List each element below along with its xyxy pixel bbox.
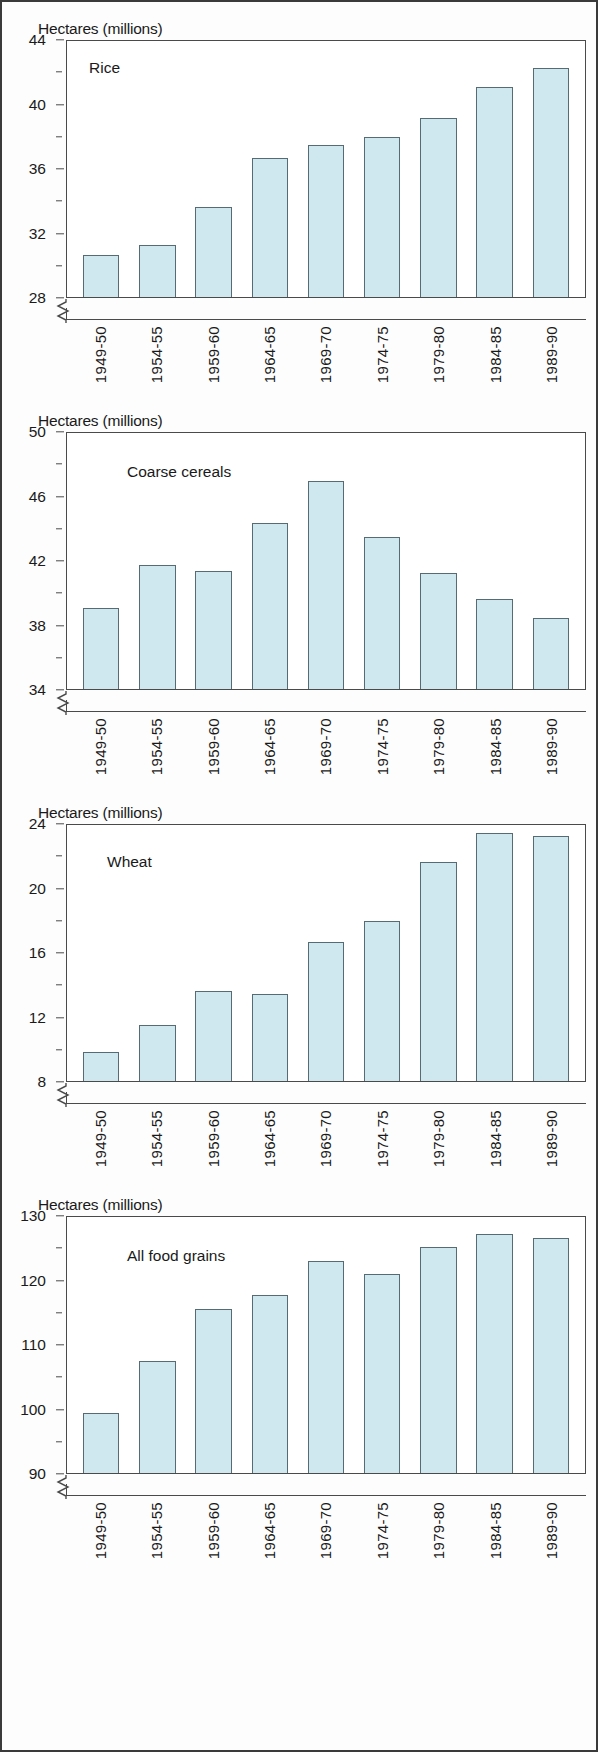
- x-axis-origin-stub: [66, 700, 67, 712]
- x-tick-label: 1964-65: [261, 1502, 278, 1559]
- y-tick-label: 100: [20, 1402, 46, 1418]
- y-axis-tick-major: [56, 431, 64, 432]
- bar: [139, 1361, 175, 1473]
- y-axis-tick-major: [56, 1017, 64, 1018]
- x-tick-label-wrap: 1959-60: [195, 1496, 232, 1574]
- bar: [533, 1238, 569, 1473]
- x-tick-label: 1964-65: [261, 326, 278, 383]
- chart-panel: Hectares (millions)2832364044Rice1949-50…: [12, 20, 586, 398]
- x-tick-label-wrap: 1984-85: [477, 1496, 514, 1574]
- x-tick-label: 1964-65: [261, 1110, 278, 1167]
- x-tick-label: 1954-55: [148, 718, 165, 775]
- bar: [364, 137, 400, 297]
- x-tick-label: 1974-75: [374, 1110, 391, 1167]
- y-axis-tick-minor: [56, 136, 62, 137]
- bar: [364, 921, 400, 1081]
- x-tick-label: 1989-90: [543, 326, 560, 383]
- y-axis-tick-major: [56, 1215, 64, 1216]
- bar: [252, 523, 288, 689]
- y-axis-tick-minor: [56, 1049, 62, 1050]
- x-tick-label-wrap: 1979-80: [421, 1104, 458, 1182]
- y-axis-labels: 2832364044: [12, 40, 56, 298]
- plot-box: Coarse cereals: [66, 432, 586, 690]
- x-axis-labels: 1949-501954-551959-601964-651969-701974-…: [66, 712, 586, 790]
- y-tick-label: 130: [20, 1208, 46, 1224]
- x-axis-region: [12, 1082, 586, 1104]
- plot-area-wrapper: 3438424650Coarse cereals: [12, 432, 586, 690]
- x-tick-label-wrap: 1989-90: [533, 320, 570, 398]
- bar: [476, 1234, 512, 1473]
- x-tick-label: 1979-80: [430, 1502, 447, 1559]
- x-tick-label: 1954-55: [148, 1502, 165, 1559]
- plot-area-wrapper: 2832364044Rice: [12, 40, 586, 298]
- x-tick-label-wrap: 1974-75: [364, 320, 401, 398]
- y-axis-tick-major: [56, 1280, 64, 1281]
- y-axis-tick-major: [56, 560, 64, 561]
- x-tick-label-wrap: 1974-75: [364, 1496, 401, 1574]
- y-tick-label: 44: [29, 32, 46, 48]
- x-tick-label: 1969-70: [317, 1110, 334, 1167]
- chart-panel: Hectares (millions)3438424650Coarse cere…: [12, 412, 586, 790]
- plot-box: All food grains: [66, 1216, 586, 1474]
- y-axis-tick-minor: [56, 528, 62, 529]
- x-axis-labels: 1949-501954-551959-601964-651969-701974-…: [66, 1104, 586, 1182]
- bar: [476, 833, 512, 1081]
- y-axis-tick-minor: [56, 1312, 62, 1313]
- plot-area-wrapper: 90100110120130All food grains: [12, 1216, 586, 1474]
- x-tick-label: 1979-80: [430, 1110, 447, 1167]
- x-tick-label-wrap: 1964-65: [251, 320, 288, 398]
- bar: [139, 245, 175, 297]
- x-tick-label: 1974-75: [374, 1502, 391, 1559]
- y-tick-label: 50: [29, 424, 46, 440]
- y-tick-label: 16: [29, 945, 46, 961]
- x-axis-region: [12, 1474, 586, 1496]
- x-tick-label: 1974-75: [374, 326, 391, 383]
- x-axis-region: [12, 298, 586, 320]
- chart-panel: Hectares (millions)90100110120130All foo…: [12, 1196, 586, 1574]
- y-tick-label: 12: [29, 1010, 46, 1026]
- y-tick-label: 20: [29, 881, 46, 897]
- y-axis-tick-major: [56, 496, 64, 497]
- bar-group: [67, 825, 585, 1081]
- y-axis-tick-major: [56, 952, 64, 953]
- x-tick-label-wrap: 1964-65: [251, 712, 288, 790]
- chart-panel: Hectares (millions)812162024Wheat1949-50…: [12, 804, 586, 1182]
- y-axis-ticks: [56, 40, 66, 298]
- bar: [252, 158, 288, 297]
- x-tick-label-wrap: 1984-85: [477, 712, 514, 790]
- x-tick-label-wrap: 1954-55: [138, 320, 175, 398]
- bar: [195, 991, 231, 1081]
- x-tick-label-wrap: 1979-80: [421, 1496, 458, 1574]
- x-tick-label-wrap: 1949-50: [82, 1104, 119, 1182]
- bar: [364, 1274, 400, 1473]
- y-axis-tick-major: [56, 233, 64, 234]
- y-axis-tick-minor: [56, 856, 62, 857]
- bar: [308, 1261, 344, 1473]
- x-tick-label-wrap: 1959-60: [195, 712, 232, 790]
- bar: [476, 599, 512, 689]
- y-axis-tick-minor: [56, 593, 62, 594]
- x-tick-label-wrap: 1959-60: [195, 320, 232, 398]
- y-axis-tick-minor: [56, 657, 62, 658]
- x-tick-label: 1984-85: [487, 326, 504, 383]
- y-tick-label: 40: [29, 97, 46, 113]
- x-tick-label-wrap: 1974-75: [364, 712, 401, 790]
- y-axis-tick-minor: [56, 201, 62, 202]
- x-tick-label-wrap: 1954-55: [138, 1496, 175, 1574]
- bar: [420, 118, 456, 297]
- x-axis-origin-stub: [66, 1484, 67, 1496]
- bar: [364, 537, 400, 689]
- x-tick-label: 1959-60: [205, 326, 222, 383]
- bar: [476, 87, 512, 297]
- x-tick-label-wrap: 1969-70: [308, 712, 345, 790]
- y-axis-tick-major: [56, 39, 64, 40]
- bar: [533, 618, 569, 689]
- x-tick-label-wrap: 1979-80: [421, 712, 458, 790]
- bar: [420, 1247, 456, 1473]
- x-tick-label: 1969-70: [317, 718, 334, 775]
- bar: [83, 608, 119, 689]
- y-axis-labels: 3438424650: [12, 432, 56, 690]
- y-axis-tick-minor: [56, 920, 62, 921]
- y-axis-tick-major: [56, 1409, 64, 1410]
- y-axis-labels: 90100110120130: [12, 1216, 56, 1474]
